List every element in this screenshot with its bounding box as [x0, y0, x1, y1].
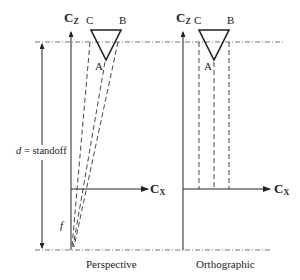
projection-ray-b	[74, 42, 118, 247]
focal-length-label: f	[60, 219, 65, 231]
vertex-a-label: A	[95, 60, 103, 72]
cz-axis-label: CZ	[64, 10, 79, 26]
perspective-caption: Perspective	[86, 258, 137, 270]
orthographic-panel: CZ CX C B A Orthographic	[176, 10, 289, 270]
projection-ray-a	[73, 62, 105, 247]
standoff-label: d = standoff	[16, 145, 67, 156]
perspective-panel: d = standoff CZ CX C B A f Perspective	[16, 10, 165, 270]
object-triangle-ortho	[199, 30, 229, 60]
vertex-c-label: C	[86, 14, 93, 26]
object-triangle	[91, 30, 121, 60]
vertex-b-label: B	[119, 14, 126, 26]
vertex-c-label-ortho: C	[194, 14, 201, 26]
vertex-b-label-ortho: B	[227, 14, 234, 26]
vertex-a-label-ortho: A	[204, 60, 212, 72]
cx-axis-label: CX	[150, 181, 165, 197]
cx-axis-label-ortho: CX	[274, 181, 289, 197]
projection-diagram: d = standoff CZ CX C B A f Perspective C…	[0, 0, 300, 280]
cz-axis-label-ortho: CZ	[176, 10, 191, 26]
orthographic-caption: Orthographic	[196, 258, 255, 270]
